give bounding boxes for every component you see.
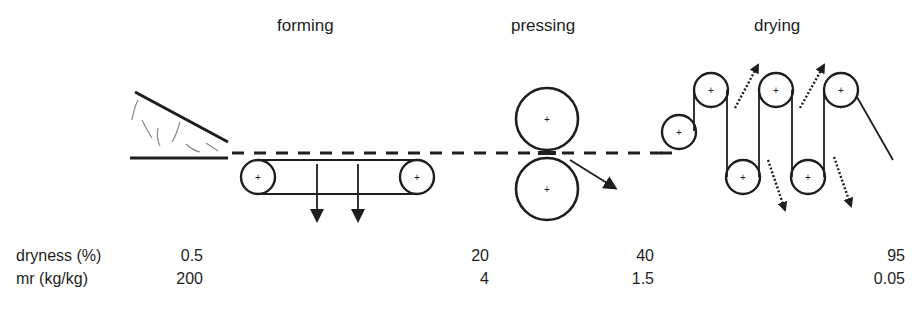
svg-text:+: +	[544, 114, 550, 125]
paper-machine-diagram: + + + + + + + + +	[0, 0, 918, 316]
svg-text:+: +	[838, 85, 844, 96]
row-label-moisture-ratio: mr (kg/kg)	[16, 270, 88, 288]
svg-text:+: +	[676, 127, 682, 138]
dryness-forming-out: 20	[429, 247, 489, 265]
row-label-dryness: dryness (%)	[16, 247, 101, 265]
dryness-forming-in: 0.5	[143, 247, 203, 265]
dryness-dryer-out: 95	[845, 247, 905, 265]
svg-text:+: +	[414, 172, 420, 183]
svg-text:+: +	[805, 172, 811, 183]
svg-text:+: +	[255, 172, 261, 183]
vapour-arrow-down-1	[768, 160, 785, 210]
vapour-arrow-up-2	[800, 65, 824, 108]
svg-text:+: +	[544, 184, 550, 195]
mr-forming-in: 200	[143, 270, 203, 288]
svg-text:+: +	[708, 85, 714, 96]
vapour-arrow-up-1	[735, 65, 758, 108]
svg-text:+: +	[773, 85, 779, 96]
svg-text:+: +	[740, 172, 746, 183]
forming-wire: + +	[241, 160, 434, 220]
dryness-press-out: 40	[594, 247, 654, 265]
mr-press-out: 1.5	[594, 270, 654, 288]
mr-forming-out: 4	[429, 270, 489, 288]
dryer-section: + + + + + +	[662, 65, 893, 210]
mr-dryer-out: 0.05	[845, 270, 905, 288]
fibre-strokes	[132, 100, 218, 152]
headbox	[130, 92, 228, 158]
vapour-arrow-down-2	[834, 157, 851, 206]
